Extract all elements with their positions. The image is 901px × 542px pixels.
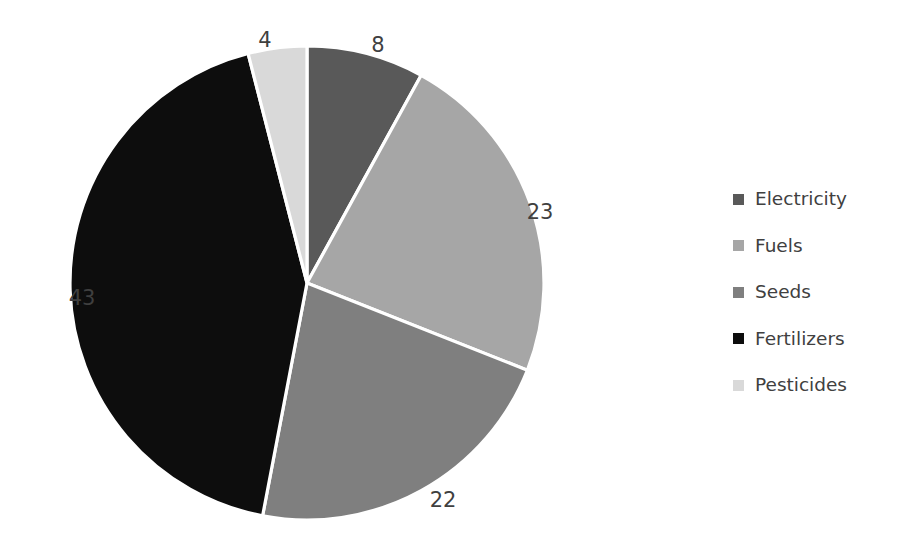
legend-swatch-icon xyxy=(733,194,744,205)
legend-item[interactable]: Fertilizers xyxy=(733,316,893,363)
pie-data-label: 8 xyxy=(371,35,384,56)
legend-item[interactable]: Seeds xyxy=(733,269,893,316)
legend-swatch-icon xyxy=(733,287,744,298)
legend-swatch-icon xyxy=(733,240,744,251)
pie-data-label: 23 xyxy=(527,202,554,223)
pie-slice-group xyxy=(70,46,544,520)
legend-item[interactable]: Electricity xyxy=(733,176,893,223)
pie-data-label: 22 xyxy=(430,490,457,511)
legend-item-label: Electricity xyxy=(755,190,847,209)
legend-item-label: Seeds xyxy=(755,283,811,302)
legend-item[interactable]: Pesticides xyxy=(733,362,893,409)
legend: ElectricityFuelsSeedsFertilizersPesticid… xyxy=(733,176,893,409)
legend-item[interactable]: Fuels xyxy=(733,223,893,270)
legend-item-label: Fertilizers xyxy=(755,330,845,349)
pie-plot-area: 82322434 xyxy=(0,0,620,542)
pie-svg xyxy=(0,0,620,542)
pie-chart: 82322434 ElectricityFuelsSeedsFertilizer… xyxy=(0,0,901,542)
legend-swatch-icon xyxy=(733,333,744,344)
pie-data-label: 4 xyxy=(258,30,271,51)
legend-item-label: Pesticides xyxy=(755,376,847,395)
legend-item-label: Fuels xyxy=(755,237,803,256)
legend-swatch-icon xyxy=(733,380,744,391)
pie-data-label: 43 xyxy=(69,288,96,309)
